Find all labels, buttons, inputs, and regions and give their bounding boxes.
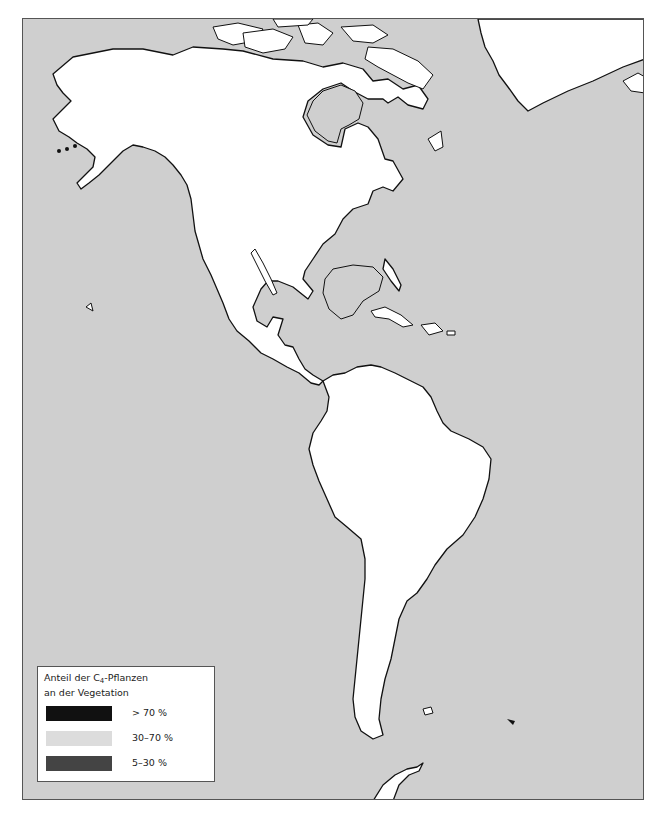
legend: Anteil der C4-Pflanzen an der Vegetation… [37,666,215,782]
legend-label-high: > 70 % [132,707,167,719]
north-america-landmass [53,47,428,385]
falkland-islands [423,707,433,715]
arctic-island [298,23,333,45]
legend-swatch-low [46,756,112,771]
legend-title: Anteil der C4-Pflanzen [44,672,208,687]
aleutian-island [57,149,61,153]
legend-swatch-high [46,706,112,721]
south-georgia [507,719,515,725]
iceland [623,73,644,93]
legend-item-high: > 70 % [46,705,167,721]
puerto-rico [447,331,455,335]
hawaii [86,303,93,311]
hispaniola [421,323,443,335]
florida [383,259,401,291]
aleutian-island [73,144,77,148]
cuba [371,307,413,327]
legend-swatch-medium [46,731,112,746]
newfoundland [428,131,443,151]
legend-subtitle: an der Vegetation [44,687,208,699]
legend-item-medium: 30–70 % [46,730,173,746]
legend-item-low: 5–30 % [46,755,167,771]
antarctic-peninsula [373,763,423,800]
greenland [478,19,644,111]
arctic-island [243,29,293,53]
legend-label-low: 5–30 % [132,757,167,769]
arctic-island [341,25,388,43]
south-america-landmass [309,365,491,739]
aleutian-island [65,147,69,151]
legend-label-medium: 30–70 % [132,732,173,744]
